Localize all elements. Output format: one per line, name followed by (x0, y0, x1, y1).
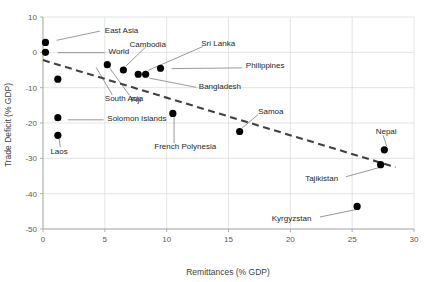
point-label: Philippines (246, 61, 285, 70)
point-label: World (109, 47, 130, 56)
data-point (54, 114, 61, 121)
point-label: Laos (50, 147, 67, 156)
leader-line (320, 210, 356, 217)
x-tick-label: 5 (103, 235, 108, 244)
y-axis-tick-labels: 100-10-20-30-40-50 (25, 13, 43, 234)
y-tick-label: -20 (25, 119, 37, 128)
y-tick-label: 0 (33, 48, 38, 57)
scatter-chart: 051015202530 100-10-20-30-40-50 East Asi… (0, 0, 432, 282)
x-tick-label: 10 (162, 235, 171, 244)
trendline-path (43, 60, 395, 167)
data-point (354, 203, 361, 210)
y-tick-label: -50 (25, 225, 37, 234)
y-tick-label: -10 (25, 84, 37, 93)
point-label: East Asia (105, 26, 139, 35)
data-point (157, 65, 164, 72)
point-label: Tajikistan (305, 174, 338, 183)
x-axis-tick-labels: 051015202530 (41, 229, 419, 244)
data-point (169, 110, 176, 117)
x-tick-label: 0 (41, 235, 46, 244)
point-label: Samoa (258, 107, 284, 116)
point-label: Bangladesh (199, 82, 241, 91)
data-point (42, 49, 49, 56)
y-axis-title: Trade Deficit (% GDP) (3, 83, 13, 167)
leader-line (148, 47, 202, 71)
y-tick-label: -30 (25, 154, 37, 163)
data-point (54, 76, 61, 83)
y-tick-label: 10 (28, 13, 37, 22)
x-axis-title: Remittances (% GDP) (186, 267, 270, 277)
leader-line (346, 168, 379, 177)
gridlines (43, 17, 414, 229)
point-label: Fiji (131, 95, 141, 104)
data-point (54, 132, 61, 139)
point-label: Cambodia (130, 40, 167, 49)
leader-line (57, 31, 100, 40)
x-tick-label: 15 (224, 235, 233, 244)
data-point (120, 66, 127, 73)
data-point (381, 146, 388, 153)
point-label: Kyrgyzstan (272, 214, 312, 223)
plot-area: 051015202530 100-10-20-30-40-50 East Asi… (0, 0, 432, 282)
data-points (42, 39, 388, 210)
point-label: Solomon Islands (107, 114, 166, 123)
x-tick-label: 25 (348, 235, 357, 244)
data-point (104, 61, 111, 68)
point-label: Sri Lanka (201, 39, 235, 48)
data-point (236, 128, 243, 135)
leader-line (383, 135, 387, 146)
leader-lines (57, 31, 387, 217)
leader-line (149, 78, 196, 87)
trendline (43, 60, 395, 167)
data-point (377, 161, 384, 168)
x-tick-label: 20 (286, 235, 295, 244)
data-point (42, 39, 49, 46)
point-label: Nepal (376, 127, 397, 136)
leader-line (172, 68, 242, 69)
x-tick-label: 30 (410, 235, 419, 244)
data-point (135, 71, 142, 78)
data-point (142, 71, 149, 78)
point-label: French Polynesia (154, 142, 216, 151)
y-tick-label: -40 (25, 190, 37, 199)
